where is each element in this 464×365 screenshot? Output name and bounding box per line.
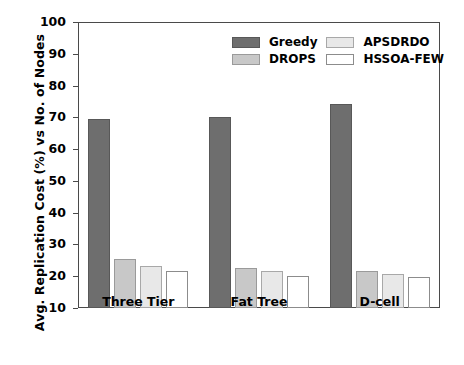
bar-chart-figure: Avg. Replication Cost (%) vs No. of Node… (0, 0, 464, 365)
x-tick-label: Three Tier (102, 294, 174, 310)
y-tick-mark (73, 213, 78, 214)
y-tick-label: 20 (36, 269, 66, 283)
y-tick-label: 60 (36, 142, 66, 156)
x-tick-label: Fat Tree (231, 294, 288, 310)
legend-label-greedy: Greedy (269, 36, 317, 49)
y-tick-mark (73, 244, 78, 245)
y-tick-label: 40 (36, 206, 66, 220)
y-tick-mark (73, 22, 78, 23)
bar-hssoa-few-d-cell (408, 277, 430, 308)
legend-swatch-drops (232, 54, 260, 65)
legend-label-apsdrdo: APSDRDO (363, 36, 444, 49)
legend-swatch-apsdrdo (326, 37, 354, 48)
y-tick-mark (73, 117, 78, 118)
y-tick-label: 90 (36, 47, 66, 61)
y-tick-mark (73, 86, 78, 87)
bar-hssoa-few-fat-tree (287, 276, 309, 308)
y-tick-mark (73, 54, 78, 55)
legend-label-drops: DROPS (269, 53, 317, 66)
legend-swatch-hssoa-few (326, 54, 354, 65)
y-tick-label: 80 (36, 79, 66, 93)
legend-swatch-greedy (232, 37, 260, 48)
y-tick-label: 50 (36, 174, 66, 188)
x-tick-label: D-cell (360, 294, 400, 310)
bar-greedy-d-cell (330, 104, 352, 308)
y-tick-mark (73, 308, 78, 309)
y-tick-label: 10 (36, 301, 66, 315)
y-tick-label: 70 (36, 110, 66, 124)
y-tick-mark (73, 276, 78, 277)
bar-greedy-fat-tree (209, 117, 231, 308)
chart-legend: GreedyAPSDRDODROPSHSSOA-FEW (232, 36, 444, 66)
bar-greedy-three-tier (88, 119, 110, 308)
legend-label-hssoa-few: HSSOA-FEW (363, 53, 444, 66)
y-tick-mark (73, 149, 78, 150)
y-tick-mark (73, 181, 78, 182)
y-tick-label: 100 (36, 15, 66, 29)
y-tick-label: 30 (36, 237, 66, 251)
